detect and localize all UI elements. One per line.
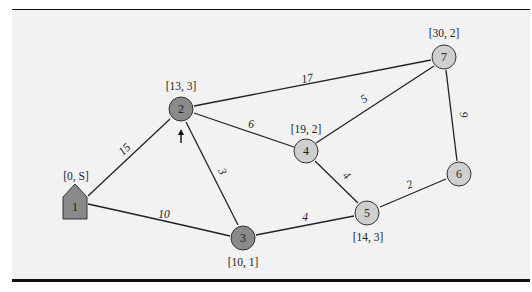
edge-4-5 (315, 161, 358, 203)
weight-2-4: 6 (248, 118, 254, 130)
node-2-coord: [13, 3] (166, 80, 197, 93)
node-4-label: 4 (303, 144, 309, 158)
node-3-coord: [10, 1] (228, 256, 259, 269)
node-1-coord: [0, S] (63, 170, 89, 183)
weight-1-2: 15 (116, 141, 133, 158)
node-1: 1 [0, S] (63, 170, 89, 219)
weight-2-3: 3 (215, 165, 229, 177)
node-4-coord: [19, 2] (291, 123, 322, 136)
node-6-label: 6 (456, 167, 462, 181)
edge-4-7 (316, 66, 434, 143)
node-7-coord: [30, 2] (429, 27, 460, 40)
node-5-label: 5 (364, 206, 370, 220)
edge-2-4 (194, 113, 294, 147)
weight-4-5: 4 (341, 169, 354, 182)
node-5-coord: [14, 3] (353, 231, 384, 244)
node-3: 3 [10, 1] (228, 226, 259, 269)
edge-6-7 (446, 70, 457, 161)
node-1-label: 1 (72, 200, 78, 214)
edges (88, 60, 457, 236)
weight-2-7: 17 (300, 71, 315, 85)
edge-1-2 (88, 119, 170, 196)
weight-5-6: 2 (405, 178, 415, 191)
weight-3-5: 4 (302, 211, 308, 223)
weight-6-7: 9 (458, 111, 471, 118)
node-7: 7 [30, 2] (429, 27, 460, 69)
up-arrow-icon (178, 129, 184, 143)
node-2-label: 2 (178, 102, 184, 116)
node-5: 5 [14, 3] (353, 201, 384, 244)
edge-5-6 (380, 179, 446, 207)
node-3-label: 3 (240, 231, 246, 245)
weight-4-7: 5 (358, 92, 370, 105)
node-6: 6 (447, 162, 471, 186)
graph-canvas: 15 10 3 6 17 4 4 5 2 9 1 [0, S] 2 [13, 3… (0, 0, 532, 292)
weight-1-3: 10 (158, 208, 170, 220)
node-7-label: 7 (441, 50, 447, 64)
edge-2-3 (186, 122, 238, 225)
